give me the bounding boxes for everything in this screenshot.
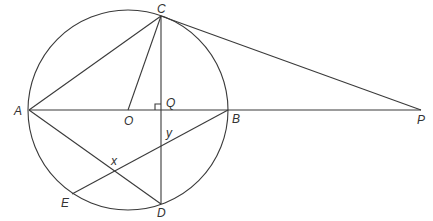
label-O: O: [124, 114, 133, 128]
label-C: C: [157, 2, 166, 16]
label-D: D: [157, 206, 166, 220]
right-angle-marker: [155, 104, 161, 110]
label-B: B: [232, 112, 240, 126]
radius-OC: [128, 16, 161, 110]
label-E: E: [61, 196, 70, 210]
label-A: A: [13, 104, 22, 118]
chord-EB: [72, 110, 228, 194]
label-P: P: [417, 113, 425, 127]
chord-AC: [29, 16, 161, 110]
label-Q: Q: [166, 96, 175, 110]
label-y: y: [165, 126, 173, 140]
geometry-diagram: C A O Q B P y x E D: [0, 0, 433, 221]
tangent-CP: [161, 16, 421, 110]
label-x: x: [110, 154, 118, 168]
